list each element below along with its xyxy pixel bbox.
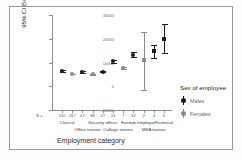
data-point: [152, 49, 156, 53]
category-label: Office trainee: [74, 127, 100, 132]
category-label: Clerical: [60, 120, 75, 125]
error-bar-cap: [162, 24, 168, 25]
category-label: Technical: [155, 120, 173, 125]
category-label: College trainee: [103, 127, 133, 132]
y-axis-title: 95% CI Beginning salary: [20, 0, 27, 28]
error-bar-cap: [162, 53, 168, 54]
y-tick-label: 20000: [103, 36, 114, 41]
error-bar-cap: [151, 45, 157, 46]
y-tick: [49, 39, 53, 40]
category-label: Exempt employee: [121, 120, 156, 125]
legend-item[interactable]: Females: [180, 109, 226, 118]
n-value: 88: [90, 113, 95, 118]
legend-items: MalesFemales: [180, 96, 226, 118]
n-value: 47: [80, 113, 85, 118]
error-bar-marker-icon: [180, 96, 187, 105]
error-bar-cap: [141, 90, 147, 91]
error-bar-cap: [151, 58, 157, 59]
y-tick: [49, 110, 53, 111]
n-value: 24: [111, 113, 116, 118]
n-value: 6: [163, 113, 165, 118]
category-label: MBA trainee: [142, 127, 166, 132]
legend-item-label: Males: [190, 98, 204, 104]
error-bar-cap: [141, 32, 147, 33]
error-bar-cap: [111, 63, 117, 64]
y-tick: [49, 15, 53, 16]
n-value: 32: [131, 113, 136, 118]
legend: Sex of employee MalesFemales: [180, 84, 226, 118]
error-bar-cap: [131, 57, 137, 58]
data-point: [142, 58, 146, 62]
n-row-label: N =: [36, 113, 43, 118]
data-point: [162, 37, 166, 41]
y-tick: [49, 63, 53, 64]
data-point: [60, 69, 64, 73]
data-point: [70, 72, 74, 76]
error-bar-marker-icon: [180, 109, 187, 118]
plot-area: 3000020000100000-10000: [52, 15, 172, 110]
n-value: 157: [69, 113, 76, 118]
legend-item-label: Females: [190, 111, 211, 117]
n-value: 2: [142, 113, 144, 118]
y-tick-label: 0: [112, 84, 114, 89]
n-value: 7: [122, 113, 124, 118]
legend-item[interactable]: Males: [180, 96, 226, 105]
n-value: 4: [153, 113, 155, 118]
legend-title: Sex of employee: [180, 84, 226, 91]
category-label: Security officer: [88, 120, 117, 125]
y-tick-label: 30000: [103, 13, 114, 18]
x-axis-title: Employment category: [57, 137, 125, 144]
data-point: [101, 70, 105, 74]
data-point: [91, 72, 95, 76]
n-value: 27: [100, 113, 105, 118]
chart-figure: 95% CI Beginning salary Employment categ…: [0, 0, 242, 160]
n-value: 110: [59, 113, 66, 118]
y-tick: [49, 86, 53, 87]
